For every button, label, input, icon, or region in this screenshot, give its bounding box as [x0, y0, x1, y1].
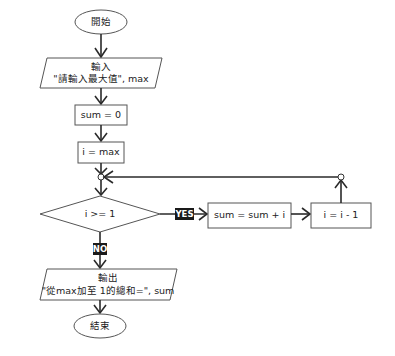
arrow-sum-to-i — [95, 125, 107, 141]
assign-i-label: i = max — [82, 146, 120, 157]
input-node[interactable]: 輸入 "請輸入最大值", max — [40, 58, 162, 88]
decision-node[interactable]: i >= 1 — [40, 196, 160, 232]
output-line2: "從max加至 1的總和=", sum — [42, 285, 175, 296]
assign-sum-node[interactable]: sum = 0 — [75, 105, 127, 125]
arrow-sum-to-dec — [291, 208, 310, 220]
input-line1: 輸入 — [91, 61, 111, 72]
end-label: 結束 — [90, 320, 110, 331]
start-terminal[interactable]: 開始 — [75, 10, 127, 34]
loop-sum-node[interactable]: sum = sum + i — [208, 203, 291, 228]
arrow-loop-back — [104, 171, 341, 183]
output-line1: 輸出 — [98, 272, 118, 283]
assign-i-node[interactable]: i = max — [78, 142, 124, 163]
svg-text:YES: YES — [174, 209, 193, 219]
yes-label: YES — [174, 208, 194, 220]
flowchart-canvas: 開始 輸入 "請輸入最大值", max sum = 0 i = max — [0, 0, 395, 356]
input-line2: "請輸入最大值", max — [53, 73, 149, 84]
arrow-connector-to-decision — [95, 180, 107, 195]
end-terminal[interactable]: 結束 — [74, 314, 126, 338]
loop-dec-node[interactable]: i = i - 1 — [311, 203, 371, 228]
arrow-output-to-end — [94, 300, 106, 313]
output-node[interactable]: 輸出 "從max加至 1的總和=", sum — [40, 269, 177, 300]
arrow-input-to-sum — [95, 88, 107, 104]
svg-text:NO: NO — [93, 244, 107, 254]
assign-sum-label: sum = 0 — [81, 109, 121, 120]
arrow-start-to-input — [95, 34, 107, 57]
no-label: NO — [93, 243, 107, 255]
decision-label: i >= 1 — [85, 208, 116, 219]
loop-sum-label: sum = sum + i — [214, 209, 285, 220]
loop-split-connector — [338, 174, 344, 180]
start-label: 開始 — [91, 16, 111, 27]
loop-dec-label: i = i - 1 — [324, 209, 359, 220]
arrow-i-to-connector — [95, 163, 107, 174]
arrow-dec-to-loop — [335, 180, 347, 203]
